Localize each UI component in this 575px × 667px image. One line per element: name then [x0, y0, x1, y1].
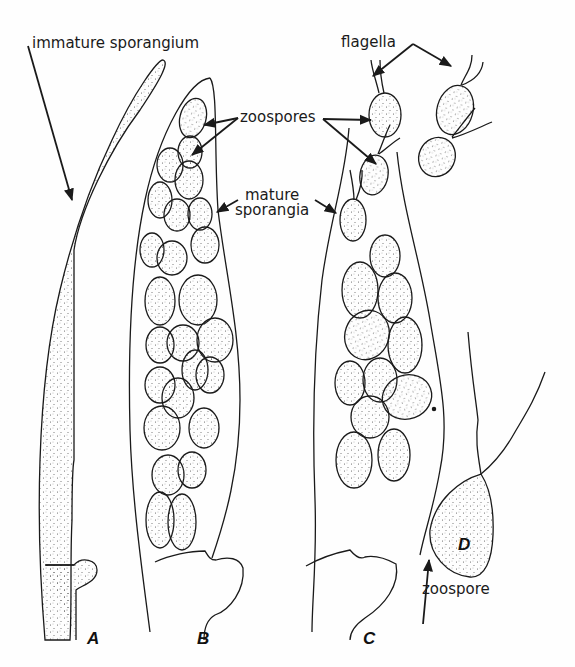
- label-flagella: flagella: [341, 35, 396, 51]
- label-mature-line2: sporangia: [235, 203, 309, 219]
- panel-label-a: A: [87, 629, 99, 649]
- panel-label-b: B: [197, 629, 209, 649]
- illustration: [0, 0, 575, 667]
- label-immature-sporangium: immature sporangium: [32, 36, 199, 52]
- figure: immature sporangium zoospores mature spo…: [0, 0, 575, 667]
- panel-label-c: C: [363, 629, 375, 649]
- panel-b-sporangium: [129, 78, 243, 640]
- panel-d-zoospore: [430, 332, 545, 577]
- label-zoospores: zoospores: [240, 110, 316, 126]
- label-zoospore: zoospore: [422, 582, 490, 598]
- panel-label-d: D: [458, 535, 470, 555]
